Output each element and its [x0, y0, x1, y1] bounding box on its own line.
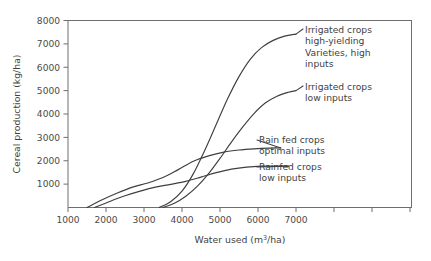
x-tick-group — [68, 208, 410, 213]
x-tick-label: 5000 — [208, 215, 231, 225]
x-tick-label: 3000 — [132, 215, 155, 225]
x-tick-label-group: 1000200030004000500060007000 — [56, 215, 307, 225]
y-tick-label: 5000 — [37, 86, 60, 96]
x-tick-label: 4000 — [170, 215, 193, 225]
x-axis-title: Water used (m3/ha) — [195, 234, 286, 245]
y-tick-label: 3000 — [37, 133, 60, 143]
y-tick-label-group: 10002000300040005000600070008000 — [37, 16, 60, 190]
y-tick-label: 4000 — [37, 109, 60, 119]
series-leader-line — [296, 86, 303, 91]
y-tick-group — [64, 21, 69, 185]
x-tick-label: 1000 — [56, 215, 79, 225]
y-axis-title: Cereal production (kg/ha) — [11, 55, 22, 174]
series-label-irrigated-low-inputs: Irrigated crops low inputs — [305, 81, 372, 104]
y-tick-label: 1000 — [37, 179, 60, 189]
y-tick-label: 7000 — [37, 39, 60, 49]
y-tick-label: 6000 — [37, 63, 60, 73]
x-tick-label: 2000 — [94, 215, 117, 225]
y-tick-label: 2000 — [37, 156, 60, 166]
x-tick-label: 7000 — [284, 215, 307, 225]
series-label-rainfed-low-inputs: Rainfed crops low inputs — [259, 161, 322, 184]
series-leader-line — [296, 29, 303, 34]
chart-figure: 1000200030004000500060007000 10002000300… — [0, 0, 431, 261]
x-tick-label: 6000 — [246, 215, 269, 225]
y-tick-label: 8000 — [37, 16, 60, 26]
series-label-rainfed-optimal-inputs: Rain fed crops optimal inputs — [259, 134, 325, 157]
series-label-irrigated-high-inputs: Irrigated crops high-yielding Varieties,… — [305, 24, 372, 70]
